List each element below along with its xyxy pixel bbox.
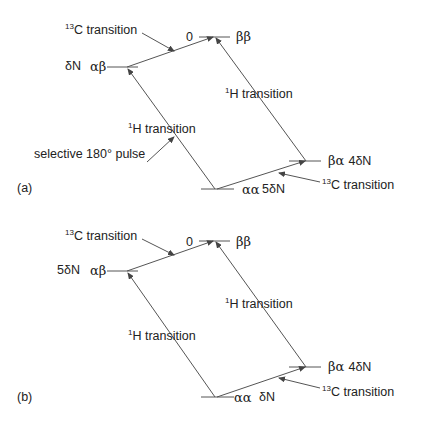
panel-label-b: (b)	[17, 391, 32, 404]
level-label-5dn-a: 5δN	[262, 183, 285, 196]
state-ab-a: αβ	[90, 60, 106, 73]
state-ab-b: αβ	[90, 264, 106, 277]
c13-transition-label-top-b: 13C transition	[65, 230, 137, 243]
level-label-dn-b: δN	[259, 391, 275, 404]
selective-pulse-label-a: selective 180° pulse	[34, 148, 145, 161]
diagram-a	[107, 33, 321, 189]
level-label-5dn-b: 5δN	[57, 264, 80, 277]
c13-transition-label-top-a: 13C transition	[65, 24, 137, 37]
diagram-b	[107, 239, 321, 397]
pointer-c13-top-b	[142, 239, 174, 255]
h1-transition-label-right-a: 1H transition	[225, 88, 293, 101]
state-bb-b: ββ	[236, 235, 251, 248]
pointer-c13-bottom-b	[279, 378, 320, 388]
c13-transition-label-bottom-a: 13C transition	[322, 179, 394, 192]
c13-transition-top-a	[127, 37, 213, 67]
panel-label-a: (a)	[17, 182, 32, 195]
state-aa-a: αα	[242, 183, 260, 196]
pointer-c13-bottom-a	[279, 173, 320, 182]
pointer-pulse-a	[147, 137, 174, 162]
state-ba-b: βα 4δN	[328, 360, 371, 374]
h1-transition-label-right-b: 1H transition	[225, 298, 293, 311]
state-aa-b: αα	[234, 391, 252, 404]
level-label-zero-b: 0	[186, 236, 193, 249]
state-ba-a: βα 4δN	[328, 154, 371, 168]
c13-transition-top-b	[127, 241, 213, 271]
level-label-dn-a: δN	[65, 60, 81, 73]
c13-transition-bottom-a	[217, 161, 305, 189]
state-bb-a: ββ	[236, 30, 251, 43]
h1-transition-label-left-b: 1H transition	[128, 330, 196, 343]
c13-transition-label-bottom-b: 13C transition	[322, 386, 394, 399]
level-label-zero-a: 0	[186, 31, 193, 44]
h1-transition-label-left-a: 1H transition	[128, 123, 196, 136]
pointer-c13-top-a	[142, 33, 174, 51]
